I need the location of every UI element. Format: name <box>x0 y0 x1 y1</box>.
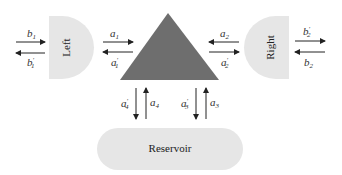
reservoir-label: Reservoir <box>149 142 192 154</box>
left-region: Left <box>49 16 94 79</box>
label-a4: a4 <box>150 96 160 110</box>
right-region: Right <box>244 16 289 79</box>
left-label: Left <box>60 38 72 56</box>
label-a3-prime: a′3 <box>181 97 189 111</box>
scatterer-triangle <box>120 13 219 80</box>
label-b1-prime: b′1 <box>27 56 35 70</box>
label-a2-prime: a′2 <box>221 56 229 70</box>
label-b2: b2 <box>304 56 314 70</box>
right-label: Right <box>264 35 276 59</box>
label-a4-prime: a′4 <box>121 97 129 111</box>
reservoir-region: Reservoir <box>97 128 243 170</box>
label-b1: b1 <box>27 27 36 41</box>
label-a3: a3 <box>210 96 220 110</box>
label-a1: a1 <box>110 27 119 41</box>
diagram-canvas: Left Right Reservoir b1 b′1 a1 a′1 a2 a′… <box>0 0 342 175</box>
label-a1-prime: a′1 <box>111 56 119 70</box>
label-a2: a2 <box>220 27 230 41</box>
label-b2-prime: b′2 <box>303 25 311 39</box>
